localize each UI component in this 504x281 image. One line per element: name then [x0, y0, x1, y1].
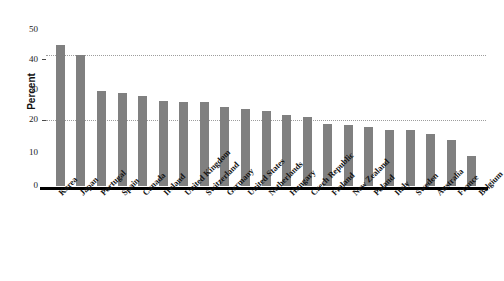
- bar-series: [46, 22, 486, 186]
- y-tick-label-0: 0: [34, 181, 39, 190]
- bar[interactable]: [138, 96, 147, 186]
- bar-slot: [441, 22, 462, 186]
- bar-slot: [173, 22, 194, 186]
- bar-slot: [50, 22, 71, 186]
- bar[interactable]: [56, 45, 65, 186]
- bar-slot: [153, 22, 174, 186]
- chart-title-clipped: [0, 0, 492, 7]
- plot-area: [46, 22, 486, 188]
- bar-slot: [91, 22, 112, 186]
- bar-slot: [420, 22, 441, 186]
- bar[interactable]: [406, 130, 415, 186]
- bar-slot: [132, 22, 153, 186]
- bar-slot: [235, 22, 256, 186]
- bar[interactable]: [97, 91, 106, 186]
- bar-slot: [359, 22, 380, 186]
- y-axis-title: Percent: [26, 52, 37, 132]
- y-tick-label-10: 10: [29, 148, 38, 157]
- y-tick-label-50: 50: [29, 25, 38, 34]
- bar-slot: [400, 22, 421, 186]
- x-axis-tick-labels: KoreaJapanPortugalSpainCanadaIrelandUnit…: [46, 191, 486, 281]
- bar[interactable]: [76, 55, 85, 186]
- bar-slot: [71, 22, 92, 186]
- bar-slot: [318, 22, 339, 186]
- y-axis: 50 40 30 20 10 0 Percent: [0, 0, 46, 281]
- bar-slot: [112, 22, 133, 186]
- bar-slot: [462, 22, 483, 186]
